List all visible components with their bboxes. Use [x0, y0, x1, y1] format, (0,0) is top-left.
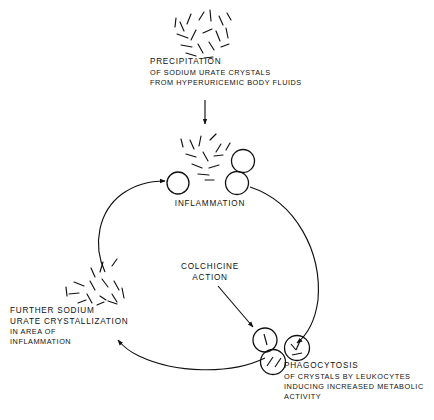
phagocytosis-line-3: ACTIVITY — [284, 392, 424, 402]
crystal-cluster-precipitation — [175, 10, 231, 58]
phagocytosis-heading: PHAGOCYTOSIS — [284, 361, 424, 372]
label-precipitation: PRECIPITATION OF SODIUM URATE CRYSTALS F… — [150, 57, 302, 88]
leukocyte-empty — [167, 172, 189, 194]
leukocyte-with-crystals — [261, 350, 286, 375]
leukocyte-group-inflammation — [167, 150, 255, 195]
label-further-crystallization: FURTHER SODIUM URATE CRYSTALLIZATION IN … — [10, 306, 128, 347]
precipitation-line-2: FROM HYPERURICEMIC BODY FLUIDS — [150, 78, 302, 88]
leukocyte-empty — [226, 172, 249, 195]
crystal-cluster-inflammation — [181, 134, 230, 180]
edge-phagocytosis-to-further — [118, 340, 265, 370]
colchicine-heading: COLCHICINE — [155, 262, 265, 273]
crystal-cluster-further — [66, 259, 124, 305]
edge-colchicine-to-phagocytosis — [218, 286, 253, 327]
leukocyte-with-crystals — [253, 328, 277, 352]
label-phagocytosis: PHAGOCYTOSIS OF CRYSTALS BY LEUKOCYTES I… — [284, 361, 424, 402]
precipitation-line-1: OF SODIUM URATE CRYSTALS — [150, 68, 302, 78]
label-inflammation: INFLAMMATION — [150, 199, 270, 210]
leukocyte-with-crystals — [285, 336, 310, 361]
further-line-2: INFLAMMATION — [10, 337, 128, 347]
precipitation-heading: PRECIPITATION — [150, 57, 302, 68]
phagocytosis-line-1: OF CRYSTALS BY LEUKOCYTES — [284, 372, 424, 382]
colchicine-line-1: ACTION — [155, 273, 265, 284]
label-colchicine: COLCHICINE ACTION — [155, 262, 265, 283]
phagocytosis-line-2: INDUCING INCREASED METABOLIC — [284, 382, 424, 392]
inflammation-heading: INFLAMMATION — [150, 199, 270, 210]
edge-further-to-inflammation — [99, 181, 165, 272]
leukocyte-empty — [232, 150, 255, 173]
further-line-1: IN AREA OF — [10, 327, 128, 337]
further-heading-2: URATE CRYSTALLIZATION — [10, 317, 128, 328]
further-heading: FURTHER SODIUM — [10, 306, 128, 317]
